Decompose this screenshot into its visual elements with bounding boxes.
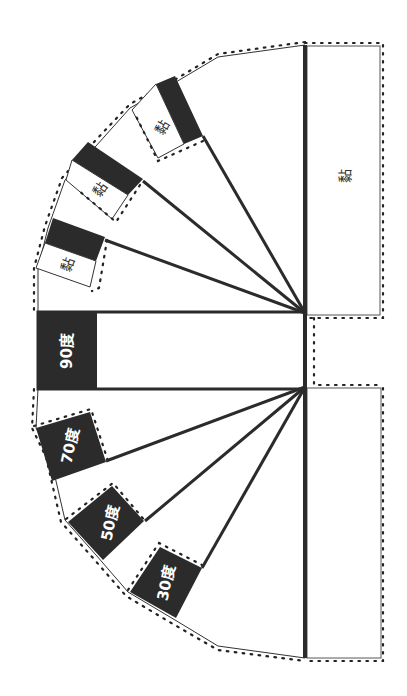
label-90: 90度	[58, 332, 76, 369]
spoke-bottom-30	[202, 387, 305, 568]
spoke-top-2	[143, 181, 305, 313]
spoke-top-3	[203, 136, 305, 313]
angle-fan-diagram: 黏 90度 黏 黏 黏 70度 50度 30度	[0, 0, 407, 696]
spoke-top-1	[105, 240, 305, 313]
connector-dots	[314, 318, 383, 385]
spoke-bottom-70	[106, 387, 305, 461]
right-bottom-panel	[307, 388, 381, 658]
panel-label: 黏	[337, 169, 353, 183]
spoke-bottom-50	[145, 387, 305, 521]
